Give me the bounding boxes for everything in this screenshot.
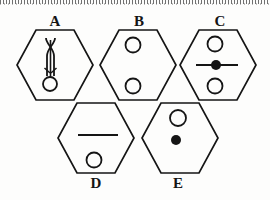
- hexagon-cell-c: [180, 30, 256, 100]
- hexagon-label-d: D: [85, 176, 107, 191]
- hexagon-figure-svg: [0, 0, 270, 200]
- hexagon-cell-e: [142, 103, 218, 173]
- hexagon-cell-b: [100, 30, 176, 100]
- crossed-needle-icon-a: [45, 38, 57, 78]
- filled-dot-e: [171, 135, 181, 145]
- hexagon-label-e: E: [167, 176, 189, 191]
- open-circle-c-bottom: [208, 79, 223, 94]
- hexagon-cell-d: [58, 103, 134, 173]
- open-circle-c-top: [208, 37, 223, 52]
- open-circle-b-top: [126, 38, 141, 53]
- open-circle-b-bottom: [126, 79, 141, 94]
- open-circle-a-1: [43, 77, 57, 91]
- open-circle-d: [87, 153, 102, 168]
- hexagon-label-b: B: [128, 14, 150, 29]
- hexagon-cell-a: [17, 30, 93, 100]
- hexagon-label-c: C: [209, 14, 231, 29]
- hexagon-outline-d: [58, 103, 134, 173]
- open-circle-e: [170, 110, 186, 126]
- figure-container: A B C D E: [0, 0, 270, 200]
- filled-dot-c: [211, 60, 221, 70]
- hexagon-label-a: A: [44, 14, 66, 29]
